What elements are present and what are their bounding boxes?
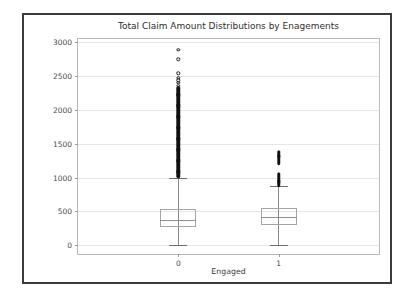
outlier-point	[277, 162, 280, 165]
median-line	[261, 217, 297, 218]
x-tick-mark	[178, 254, 179, 257]
y-tick-label: 500	[58, 207, 72, 216]
outlier-point	[177, 48, 180, 51]
whisker-cap-lower	[169, 245, 187, 246]
y-tick-label: 2500	[53, 72, 72, 81]
y-tick-label: 2000	[53, 105, 72, 114]
plot-axes-area: 05001000150020002500300001	[77, 38, 380, 255]
y-gridline	[78, 144, 379, 145]
y-tick-label: 0	[67, 241, 72, 250]
y-tick-mark	[75, 76, 78, 77]
chart-title: Total Claim Amount Distributions by Enag…	[77, 21, 380, 31]
figure-frame: Total Claim Amount Distributions by Enag…	[22, 13, 392, 284]
y-tick-mark	[75, 110, 78, 111]
outlier-point	[177, 58, 180, 61]
y-gridline	[78, 211, 379, 212]
y-tick-label: 1500	[53, 139, 72, 148]
whisker-cap-lower	[270, 245, 288, 246]
box-iqr	[160, 209, 196, 226]
x-tick-mark	[279, 254, 280, 257]
y-tick-mark	[75, 42, 78, 43]
y-gridline	[78, 76, 379, 77]
median-line	[160, 220, 196, 221]
y-gridline	[78, 110, 379, 111]
x-axis-label: Engaged	[77, 267, 380, 276]
y-tick-mark	[75, 211, 78, 212]
y-gridline	[78, 42, 379, 43]
y-tick-label: 3000	[53, 38, 72, 47]
y-tick-mark	[75, 144, 78, 145]
outlier-point	[177, 72, 180, 75]
y-tick-mark	[75, 178, 78, 179]
plot-stage: Total Claim Amount Distributions by Enag…	[24, 15, 390, 282]
y-gridline	[78, 178, 379, 179]
y-gridline	[78, 245, 379, 246]
y-tick-mark	[75, 245, 78, 246]
y-tick-label: 1000	[53, 173, 72, 182]
